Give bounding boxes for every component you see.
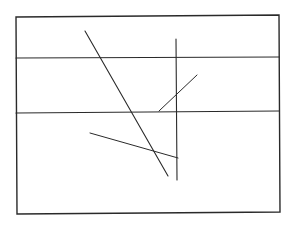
- line-group: [16, 31, 279, 180]
- line-long-diagonal: [85, 31, 168, 176]
- line-lower-diagonal: [90, 133, 178, 158]
- line-vertical: [176, 39, 177, 180]
- line-horizontal-lower: [16, 111, 279, 113]
- line-short-diagonal: [159, 75, 197, 111]
- line-horizontal-upper: [16, 57, 279, 58]
- line-diagram: [0, 0, 296, 229]
- frame-rectangle: [16, 15, 280, 214]
